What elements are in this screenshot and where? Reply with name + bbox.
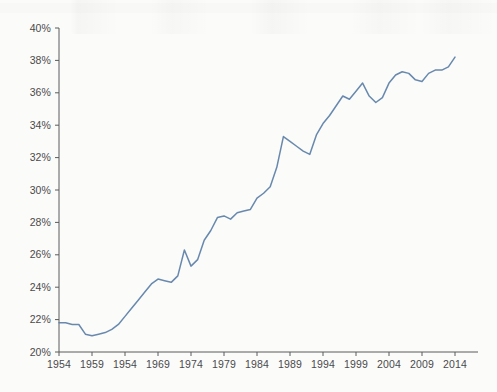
y-tick-label: 32% <box>30 151 51 163</box>
y-tick-label: 36% <box>30 86 51 98</box>
plot-area <box>59 57 455 336</box>
chart-figure: 20%22%24%26%28%30%32%34%36%38%40% 195419… <box>0 0 497 392</box>
data-series-line <box>59 57 455 336</box>
x-tick-label: 2009 <box>410 358 434 370</box>
x-tick-label: 1989 <box>278 358 302 370</box>
x-tick-label: 1954 <box>47 358 71 370</box>
x-axis: 1954195919541969197419791984198919941999… <box>47 352 478 370</box>
x-tick-label: 1984 <box>245 358 269 370</box>
x-tick-label: 1954 <box>113 358 137 370</box>
x-tick-label: 2014 <box>443 358 467 370</box>
x-tick-label: 1979 <box>212 358 236 370</box>
y-tick-label: 38% <box>30 54 51 66</box>
x-tick-label: 1974 <box>179 358 203 370</box>
x-tick-label: 1994 <box>311 358 335 370</box>
x-tick-label: 1959 <box>80 358 104 370</box>
y-tick-label: 40% <box>30 22 51 34</box>
y-tick-label: 20% <box>30 346 51 358</box>
line-chart: 20%22%24%26%28%30%32%34%36%38%40% 195419… <box>0 0 497 392</box>
x-tick-label: 2004 <box>377 358 401 370</box>
y-tick-label: 30% <box>30 184 51 196</box>
y-tick-label: 34% <box>30 119 51 131</box>
y-tick-label: 22% <box>30 313 51 325</box>
y-tick-label: 26% <box>30 248 51 260</box>
y-tick-label: 24% <box>30 281 51 293</box>
y-tick-label: 28% <box>30 216 51 228</box>
x-tick-label: 1969 <box>146 358 170 370</box>
x-tick-label: 1999 <box>344 358 368 370</box>
y-axis: 20%22%24%26%28%30%32%34%36%38%40% <box>30 22 59 358</box>
